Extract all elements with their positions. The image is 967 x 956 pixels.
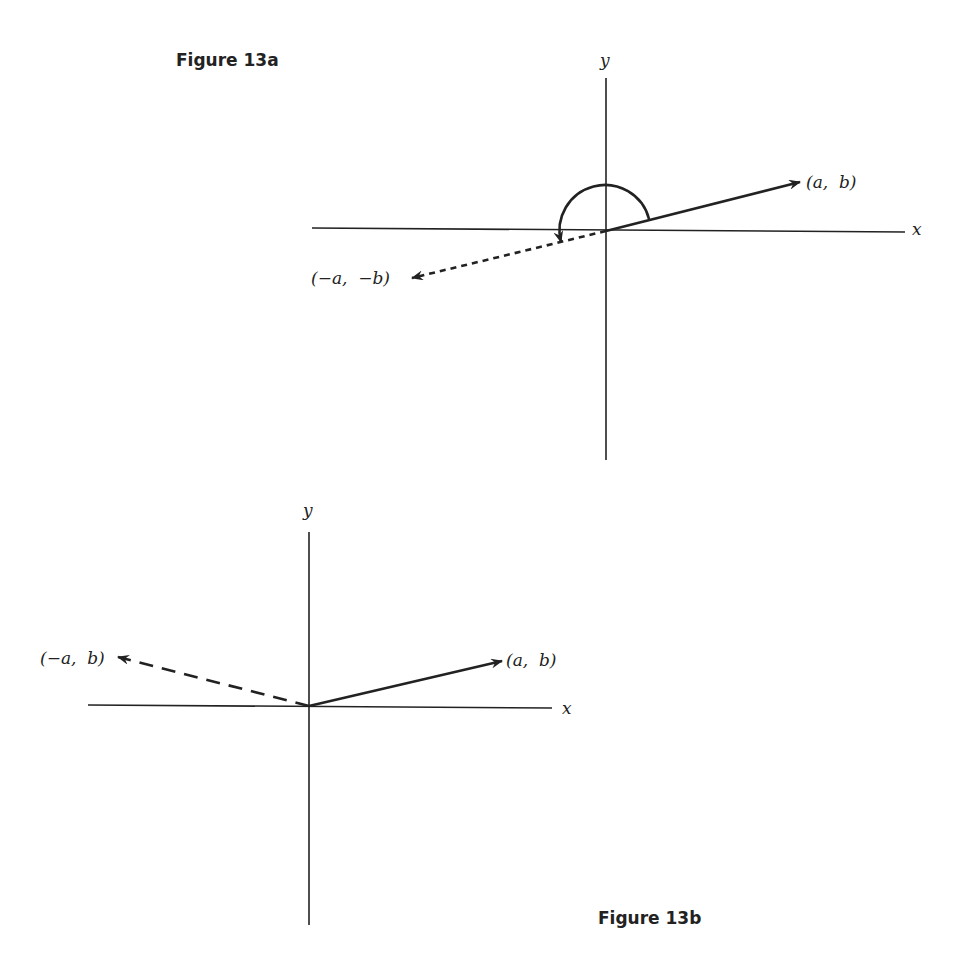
fig-a-vector-neg-ab-label: (−a, −b) bbox=[311, 268, 390, 288]
fig-a-y-axis-label: y bbox=[600, 50, 610, 70]
figure-13a bbox=[312, 78, 905, 460]
fig-b-vector-ab-label: (a, b) bbox=[506, 650, 557, 670]
fig-b-y-axis-label: y bbox=[303, 500, 313, 520]
fig-b-vector-neg-a-b-label: (−a, b) bbox=[40, 648, 105, 668]
fig-a-x-axis-label: x bbox=[912, 219, 922, 239]
diagram-canvas bbox=[0, 0, 967, 956]
fig-a-vector-neg-ab bbox=[412, 231, 606, 278]
fig-a-rotation-arc bbox=[560, 185, 649, 242]
fig-a-vector-ab bbox=[606, 182, 800, 231]
figure-13b-caption: Figure 13b bbox=[598, 908, 701, 928]
fig-b-x-axis bbox=[88, 705, 552, 708]
fig-b-x-axis-label: x bbox=[562, 698, 572, 718]
figure-13b bbox=[88, 532, 552, 925]
fig-b-vector-ab bbox=[309, 661, 502, 706]
fig-a-vector-ab-label: (a, b) bbox=[806, 172, 857, 192]
fig-b-vector-neg-a-b bbox=[118, 657, 309, 706]
figure-13a-caption: Figure 13a bbox=[176, 50, 279, 70]
